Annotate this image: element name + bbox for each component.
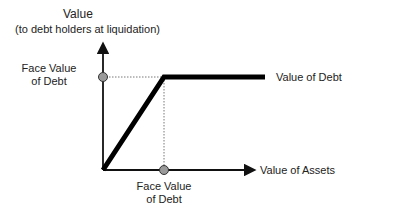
y-axis-face-value-marker: [99, 73, 108, 82]
x-marker-label-line2: of Debt: [129, 193, 199, 206]
y-axis-title: Value: [63, 8, 93, 21]
x-axis-face-value-marker: [160, 166, 169, 175]
y-marker-label-line2: of Debt: [14, 75, 84, 88]
x-axis-marker-label: Face Value of Debt: [129, 180, 199, 206]
x-marker-label-line1: Face Value: [129, 180, 199, 193]
x-axis-title: Value of Assets: [260, 164, 335, 177]
y-axis-subtitle: (to debt holders at liquidation): [15, 23, 160, 36]
y-marker-label-line1: Face Value: [14, 62, 84, 75]
y-axis-marker-label: Face Value of Debt: [14, 62, 84, 88]
curve-label: Value of Debt: [276, 71, 342, 84]
value-of-debt-curve: [103, 77, 265, 170]
